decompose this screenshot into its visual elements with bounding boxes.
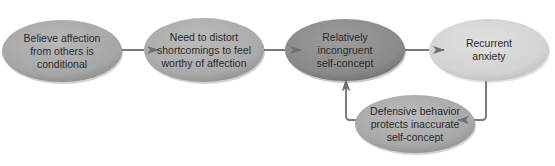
label-believe-affection-conditional: Believe affection from others is conditi… — [12, 28, 112, 74]
flow-diagram — [0, 0, 555, 166]
label-defensive-behavior: Defensive behavior protects inaccurate s… — [360, 101, 470, 147]
label-recurrent-anxiety: Recurrent anxiety — [439, 27, 539, 73]
label-need-to-distort-shortcomings: Need to distort shortcomings to feel wor… — [149, 27, 259, 73]
label-incongruent-self-concept: Relatively incongruent self-concept — [295, 27, 395, 73]
arrow-n5-to-n3 — [346, 80, 358, 120]
